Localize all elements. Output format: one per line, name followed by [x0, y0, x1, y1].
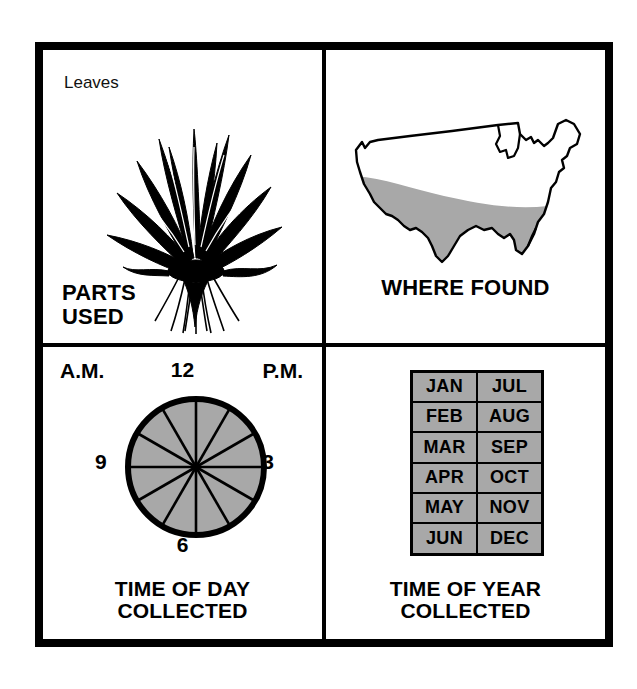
caption-time-of-day: TIME OF DAY COLLECTED — [43, 578, 322, 623]
caption-time-of-year-line2: COLLECTED — [326, 600, 605, 623]
month-cell: DEC — [478, 524, 541, 552]
caption-parts-used-line1: PARTS — [62, 281, 136, 305]
plant-part-label: Leaves — [64, 73, 119, 93]
month-cell: OCT — [478, 464, 541, 492]
caption-time-of-day-line2: COLLECTED — [43, 600, 322, 623]
quadrant-grid: Leaves — [43, 50, 605, 639]
month-cell: MAR — [413, 433, 476, 461]
clock-hour-12: 12 — [43, 358, 322, 382]
month-cell: APR — [413, 464, 476, 492]
month-cell: MAY — [413, 494, 476, 522]
panel-time-of-day: A.M. P.M. 12 3 6 9 — [43, 345, 324, 640]
month-cell: FEB — [413, 403, 476, 431]
clock-hour-9: 9 — [95, 450, 107, 474]
month-cell: JAN — [413, 373, 476, 401]
caption-parts-used: PARTS USED — [62, 281, 136, 329]
united-states-map — [348, 110, 588, 270]
caption-time-of-day-line1: TIME OF DAY — [43, 578, 322, 601]
caption-time-of-year: TIME OF YEAR COLLECTED — [326, 578, 605, 623]
caption-parts-used-line2: USED — [62, 305, 136, 329]
panel-time-of-year: JAN JUL FEB AUG MAR SEP APR OCT MAY NOV … — [324, 345, 605, 640]
calendar-grid: JAN JUL FEB AUG MAR SEP APR OCT MAY NOV … — [410, 370, 544, 556]
clock-center-dot — [193, 464, 199, 470]
month-cell: JUN — [413, 524, 476, 552]
panel-where-found: WHERE FOUND — [324, 50, 605, 345]
clock-dial — [121, 392, 271, 542]
month-cell: SEP — [478, 433, 541, 461]
month-cell: NOV — [478, 494, 541, 522]
month-cell: JUL — [478, 373, 541, 401]
panel-parts-used: Leaves — [43, 50, 324, 345]
caption-where-found: WHERE FOUND — [326, 276, 605, 300]
plant-reference-chart: Leaves — [35, 42, 613, 647]
month-cell: AUG — [478, 403, 541, 431]
caption-time-of-year-line1: TIME OF YEAR — [326, 578, 605, 601]
